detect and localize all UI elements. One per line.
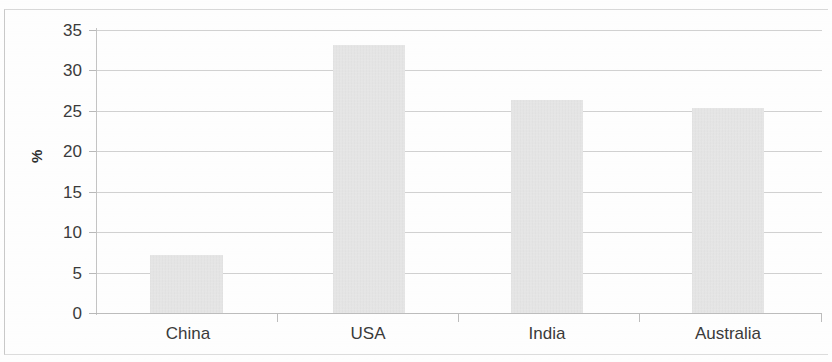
y-axis-title: % [28,150,45,163]
x-label-india: India [492,325,602,344]
x-label-china: China [133,325,243,344]
gridline-35 [96,30,822,31]
y-axis-tick [89,111,96,112]
y-axis-tick [89,232,96,233]
x-axis-tick [821,313,822,322]
bar-chart: 35 30 25 20 15 10 5 0 % [0,0,832,362]
x-axis-tick [458,313,459,322]
y-tick-label: 0 [40,305,82,322]
plot-area [96,30,822,313]
bar-india[interactable] [511,100,583,314]
y-tick-label: 25 [40,103,82,120]
x-label-australia: Australia [673,325,783,344]
y-axis-tick [89,273,96,274]
scanned-page: 35 30 25 20 15 10 5 0 % [0,0,832,362]
y-tick-label: 10 [40,224,82,241]
y-tick-label: 30 [40,62,82,79]
gridline-30 [96,70,822,71]
bar-usa[interactable] [333,45,405,313]
x-axis-tick [639,313,640,322]
y-tick-label: 5 [40,265,82,282]
y-tick-label: 15 [40,184,82,201]
y-axis-tick [89,192,96,193]
y-axis-tick [89,70,96,71]
bar-china[interactable] [150,255,223,313]
y-axis-tick [89,30,96,31]
y-axis-tick-labels: 35 30 25 20 15 10 5 0 [36,0,82,362]
gridline-0-baseline [96,313,822,314]
y-tick-label: 20 [40,143,82,160]
x-axis-tick [277,313,278,322]
y-axis-tick [89,313,96,314]
bar-australia[interactable] [692,108,764,313]
y-axis-tick [89,151,96,152]
x-label-usa: USA [313,325,423,344]
y-tick-label: 35 [40,22,82,39]
